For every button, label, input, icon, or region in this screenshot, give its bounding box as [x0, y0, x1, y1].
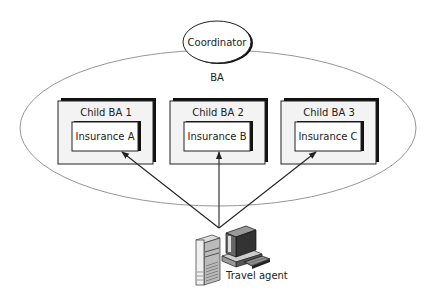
ba-label: BA — [210, 72, 224, 83]
diagram-canvas: Coordinator BA Child BA 1 Insurance A Ch… — [0, 0, 433, 297]
child-ba-3-label: Child BA 3 — [303, 107, 355, 118]
insurance-c-label: Insurance C — [298, 131, 357, 142]
insurance-b-label: Insurance B — [187, 131, 246, 142]
coordinator-label: Coordinator — [188, 37, 248, 48]
child-ba-2-label: Child BA 2 — [192, 107, 244, 118]
coordinator-node: Coordinator — [183, 21, 253, 64]
travel-agent-label: Travel agent — [225, 270, 288, 281]
child-ba-3: Child BA 3 Insurance C — [281, 98, 379, 164]
insurance-a-label: Insurance A — [75, 131, 134, 142]
child-ba-1: Child BA 1 Insurance A — [58, 98, 156, 164]
child-ba-1-label: Child BA 1 — [80, 107, 132, 118]
